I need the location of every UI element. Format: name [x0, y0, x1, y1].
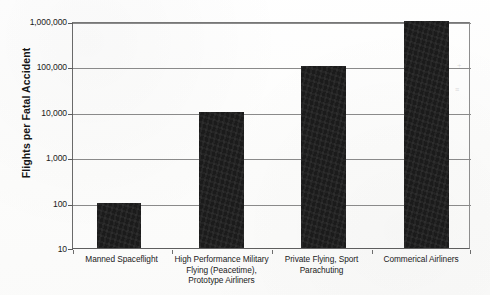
y-tick-label-10: 10: [58, 244, 67, 254]
bar-commerical-airliners: [404, 21, 449, 248]
bar-high-performance-military-flying: [199, 112, 244, 248]
scan-artifact-mark-2: ≡: [455, 85, 460, 94]
x-label-line: Prototype Airliners: [169, 275, 274, 286]
y-axis-tick-labels: 1,000,000 100,000 10,000 1,000 100 10: [6, 22, 67, 249]
y-tick-label-1000000: 1,000,000: [30, 17, 67, 27]
x-label-line: Flying (Peacetime),: [169, 265, 274, 276]
x-label-manned-spaceflight: Manned Spaceflight: [70, 254, 173, 265]
bar-private-flying-sport-parachuting: [301, 66, 346, 248]
log-bar-chart-figure: Flights per Fatal Accident 1,000,000 100…: [0, 0, 490, 295]
plot-area: + ≡: [72, 22, 470, 249]
x-label-line: Private Flying, Sport: [270, 254, 373, 265]
y-tick-label-100000: 100,000: [37, 62, 67, 72]
y-tick-label-1000: 1,000: [46, 153, 67, 163]
y-tick-mark-10000: [68, 114, 73, 115]
bar-manned-spaceflight: [97, 203, 141, 248]
x-label-commerical-airliners: Commerical Airliners: [371, 254, 471, 265]
y-tick-mark-100000: [68, 68, 73, 69]
x-label-high-performance-military-flying: High Performance Military Flying (Peacet…: [169, 254, 274, 286]
x-label-line: Manned Spaceflight: [70, 254, 173, 265]
x-label-line: Parachuting: [270, 265, 373, 276]
x-label-line: Commerical Airliners: [371, 254, 471, 265]
y-tick-mark-100: [68, 205, 73, 206]
y-tick-label-100: 100: [53, 199, 67, 209]
x-label-private-flying-sport-parachuting: Private Flying, Sport Parachuting: [270, 254, 373, 275]
y-tick-mark-1000000: [68, 23, 73, 24]
x-label-line: High Performance Military: [169, 254, 274, 265]
x-axis-category-labels: Manned Spaceflight High Performance Mili…: [72, 254, 470, 294]
y-tick-mark-1000: [68, 159, 73, 160]
y-tick-label-10000: 10,000: [41, 108, 67, 118]
